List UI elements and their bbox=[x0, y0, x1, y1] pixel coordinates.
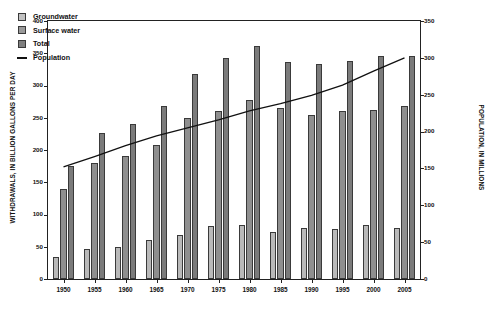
y-tick-left bbox=[44, 86, 48, 87]
bar-groundwater-1995 bbox=[332, 229, 339, 279]
y-tick-label-right: 0 bbox=[424, 276, 450, 282]
bar-surface-water-1985 bbox=[277, 108, 284, 279]
bar-groundwater-1950 bbox=[53, 257, 60, 279]
bar-total-1985 bbox=[285, 62, 292, 279]
bar-total-1995 bbox=[347, 61, 354, 279]
bar-groundwater-1985 bbox=[270, 232, 277, 279]
bar-groundwater-1975 bbox=[208, 226, 215, 279]
y-tick-left bbox=[44, 182, 48, 183]
bar-total-1990 bbox=[316, 64, 323, 279]
y-tick-left bbox=[44, 150, 48, 151]
y-tick-label-right: 350 bbox=[424, 18, 450, 24]
y-tick-label-left: 200 bbox=[17, 147, 43, 153]
legend-label: Groundwater bbox=[33, 12, 78, 21]
x-tick bbox=[157, 279, 158, 283]
x-tick bbox=[250, 279, 251, 283]
y-tick-label-right: 300 bbox=[424, 55, 450, 61]
bar-groundwater-1960 bbox=[115, 247, 122, 279]
bar-surface-water-2000 bbox=[370, 110, 377, 279]
bar-total-2005 bbox=[409, 56, 416, 279]
legend-item-total: Total bbox=[18, 37, 80, 51]
bar-groundwater-2005 bbox=[394, 228, 401, 279]
bar-surface-water-1980 bbox=[246, 100, 253, 279]
y-tick-label-right: 200 bbox=[424, 128, 450, 134]
x-tick bbox=[281, 279, 282, 283]
y-tick-label-right: 150 bbox=[424, 165, 450, 171]
legend-swatch-icon bbox=[18, 26, 26, 34]
bar-surface-water-1995 bbox=[339, 111, 346, 279]
bar-total-1970 bbox=[192, 74, 199, 279]
y-tick-left bbox=[44, 215, 48, 216]
bar-surface-water-1950 bbox=[60, 189, 67, 279]
y-axis-right-title: POPULATION, IN MILLIONS bbox=[478, 48, 485, 248]
bar-surface-water-1975 bbox=[215, 111, 222, 279]
y-tick-label-right: 100 bbox=[424, 202, 450, 208]
bar-groundwater-1980 bbox=[239, 225, 246, 279]
bar-surface-water-1965 bbox=[153, 145, 160, 279]
legend-line-icon bbox=[18, 53, 26, 61]
legend-item-surface-water: Surface water bbox=[18, 24, 80, 38]
bar-groundwater-1955 bbox=[84, 249, 91, 279]
legend-swatch-icon bbox=[18, 40, 26, 48]
bar-total-1965 bbox=[161, 106, 168, 280]
x-tick bbox=[374, 279, 375, 283]
x-tick bbox=[343, 279, 344, 283]
y-tick-label-left: 100 bbox=[17, 211, 43, 217]
legend-swatch-icon bbox=[18, 13, 26, 21]
plot-area: 050100150200250300350400 050100150200250… bbox=[47, 20, 421, 280]
x-tick bbox=[405, 279, 406, 283]
y-tick-label-left: 50 bbox=[17, 244, 43, 250]
bar-total-1955 bbox=[99, 133, 106, 279]
y-tick-label-left: 0 bbox=[17, 276, 43, 282]
legend-label: Total bbox=[33, 39, 50, 48]
x-tick bbox=[126, 279, 127, 283]
y-tick-left bbox=[44, 247, 48, 248]
y-tick-label-left: 300 bbox=[17, 82, 43, 88]
y-tick-left bbox=[44, 279, 48, 280]
y-tick-left bbox=[44, 118, 48, 119]
bar-total-1980 bbox=[254, 46, 261, 279]
legend-item-population: Population bbox=[18, 51, 80, 65]
legend-item-groundwater: Groundwater bbox=[18, 10, 80, 24]
x-tick bbox=[312, 279, 313, 283]
y-tick-label-right: 250 bbox=[424, 92, 450, 98]
x-tick bbox=[64, 279, 65, 283]
x-tick bbox=[219, 279, 220, 283]
y-tick-label-left: 250 bbox=[17, 115, 43, 121]
y-tick-label-right: 50 bbox=[424, 239, 450, 245]
x-tick-label: 2005 bbox=[385, 287, 425, 293]
bar-total-1960 bbox=[130, 124, 137, 279]
bar-groundwater-2000 bbox=[363, 225, 370, 279]
bar-surface-water-1955 bbox=[91, 163, 98, 279]
y-axis-left-title: WITHDRAWALS, IN BILLION GALLONS PER DAY bbox=[9, 48, 16, 248]
bar-total-1950 bbox=[68, 166, 75, 279]
bar-groundwater-1970 bbox=[177, 235, 184, 279]
bar-surface-water-2005 bbox=[401, 106, 408, 279]
x-tick bbox=[95, 279, 96, 283]
bar-surface-water-1990 bbox=[308, 115, 315, 279]
legend-label: Surface water bbox=[33, 26, 80, 35]
x-tick bbox=[188, 279, 189, 283]
bar-surface-water-1960 bbox=[122, 156, 129, 279]
chart-legend: GroundwaterSurface waterTotalPopulation bbox=[18, 10, 80, 64]
bar-total-1975 bbox=[223, 58, 230, 279]
bar-groundwater-1990 bbox=[301, 228, 308, 279]
bar-total-2000 bbox=[378, 56, 385, 279]
legend-label: Population bbox=[33, 53, 70, 62]
bar-surface-water-1970 bbox=[184, 118, 191, 279]
y-tick-label-left: 150 bbox=[17, 179, 43, 185]
bar-groundwater-1965 bbox=[146, 240, 153, 279]
